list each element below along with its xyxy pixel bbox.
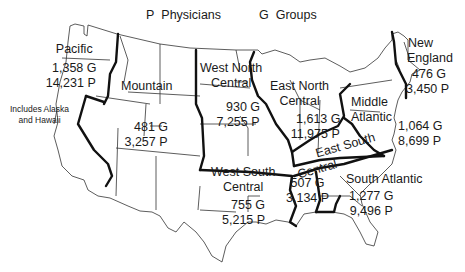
legend-physicians: P Physicians xyxy=(146,8,221,22)
region-label-south-atlantic: South Atlantic xyxy=(346,172,422,187)
region-physicians: 11,975 P xyxy=(290,127,340,142)
region-values-east-south-central: 507 G 3,134 P xyxy=(286,176,329,206)
region-values-south-atlantic: 1,277 G 9,496 P xyxy=(349,189,393,219)
region-name: Pacific xyxy=(52,42,96,57)
region-physicians: 3,134 P xyxy=(286,191,329,206)
legend-groups-key: G xyxy=(259,8,269,22)
region-physicians: 7,255 P xyxy=(216,115,260,130)
region-label-west-north-central: West North Central xyxy=(200,61,262,91)
region-values-new-england: 476 G 3,450 P xyxy=(405,67,449,97)
legend-groups-label: Groups xyxy=(276,8,317,22)
legend-physicians-key: P xyxy=(146,8,154,22)
region-physicians: 9,496 P xyxy=(349,204,393,219)
region-groups: 1,613 G xyxy=(296,112,340,127)
region-name-line: South Atlantic xyxy=(346,172,422,187)
note-line: and Hawaii xyxy=(10,115,69,126)
note-line: Includes Alaska xyxy=(10,104,69,115)
region-name: Mountain xyxy=(121,79,172,94)
region-groups: 1,358 G xyxy=(52,61,96,76)
region-values-east-north-central: 1,613 G 11,975 P xyxy=(290,112,340,142)
region-groups: 481 G xyxy=(134,120,168,135)
region-note-pacific: Includes Alaska and Hawaii xyxy=(10,104,69,126)
region-physicians: 3,450 P xyxy=(406,82,449,97)
region-values-middle-atlantic: 1,064 G 8,699 P xyxy=(398,119,442,149)
region-groups: 507 G xyxy=(286,176,329,191)
region-label-pacific: Pacific 1,358 G 14,231 P xyxy=(52,42,96,91)
region-name-line: West South xyxy=(211,165,275,180)
region-physicians: 5,215 P xyxy=(222,213,265,228)
region-groups: 755 G xyxy=(222,198,265,213)
region-groups: 476 G xyxy=(412,67,449,82)
region-name-line: Atlantic xyxy=(351,110,392,125)
region-label-mountain: Mountain xyxy=(121,79,172,94)
region-name-line: East North xyxy=(270,79,329,94)
legend-physicians-label: Physicians xyxy=(161,8,221,22)
us-census-regions-map xyxy=(0,0,465,272)
region-groups: 1,277 G xyxy=(349,189,393,204)
region-physicians: 3,257 P xyxy=(124,135,168,150)
region-name-line: England xyxy=(407,51,453,66)
region-label-new-england: New England xyxy=(407,36,453,66)
region-name-line: Central xyxy=(211,180,275,195)
region-name-line: New xyxy=(408,36,453,51)
region-physicians: 14,231 P xyxy=(45,76,96,91)
region-name-line: Middle xyxy=(347,95,392,110)
region-physicians: 8,699 P xyxy=(398,134,442,149)
legend-groups: G Groups xyxy=(259,8,317,22)
region-label-west-south-central: West South Central xyxy=(211,165,275,195)
region-label-middle-atlantic: Middle Atlantic xyxy=(351,95,392,125)
region-groups: 1,064 G xyxy=(398,119,442,134)
region-name-line: Central xyxy=(270,94,329,109)
region-label-east-north-central: East North Central xyxy=(270,79,329,109)
region-groups: 930 G xyxy=(226,100,260,115)
region-values-west-north-central: 930 G 7,255 P xyxy=(216,100,260,130)
region-values-west-south-central: 755 G 5,215 P xyxy=(222,198,265,228)
region-name-line: Central xyxy=(200,76,262,91)
region-values-mountain: 481 G 3,257 P xyxy=(124,120,168,150)
region-name-line: West North xyxy=(200,61,262,76)
